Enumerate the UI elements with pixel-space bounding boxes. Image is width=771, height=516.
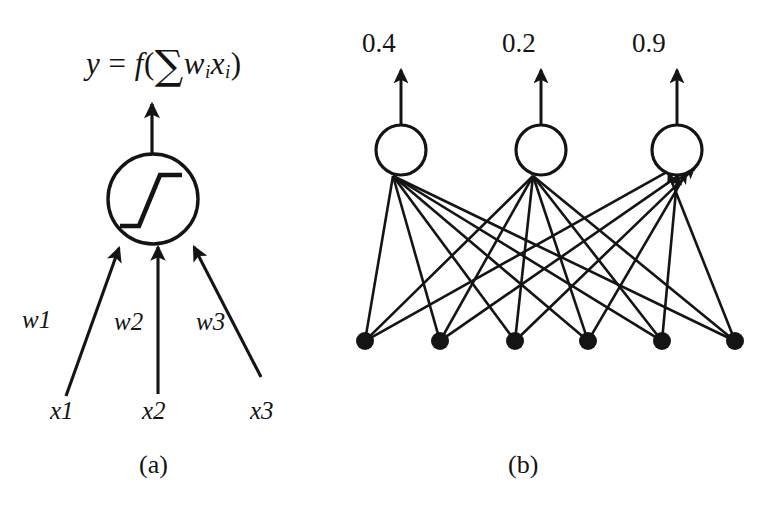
input-node-2	[431, 332, 449, 350]
output-neuron-1	[376, 125, 426, 175]
formula-w: w	[184, 46, 205, 81]
output-value-2: 0.2	[502, 30, 536, 57]
input-label-x2: x2	[142, 398, 166, 423]
input-label-x3: x3	[250, 398, 274, 423]
output-value-3: 0.9	[632, 30, 666, 57]
neuron-circle	[108, 154, 198, 244]
formula-open-paren: (	[144, 46, 155, 81]
input-node-3	[506, 332, 524, 350]
caption-b: (b)	[508, 452, 538, 478]
formula-equals: =	[100, 46, 134, 81]
formula-f: f	[135, 46, 144, 81]
output-neuron-3	[652, 125, 702, 175]
weight-label-w2: w2	[114, 309, 143, 334]
input-node-6	[726, 332, 744, 350]
weight-label-w3: w3	[196, 309, 225, 334]
output-neuron-2	[516, 125, 566, 175]
input-label-x1: x1	[50, 398, 74, 423]
formula-close-paren: )	[231, 46, 242, 81]
weight-label-w1: w1	[22, 307, 51, 332]
neuron-formula: y = f(∑wixi)	[86, 40, 242, 81]
input-node-1	[356, 332, 374, 350]
formula-y: y	[86, 46, 100, 81]
input-node-5	[653, 332, 671, 350]
summation-icon: ∑	[155, 42, 184, 88]
input-node-4	[579, 332, 597, 350]
formula-x: x	[211, 46, 225, 81]
caption-a: (a)	[139, 452, 168, 478]
output-value-1: 0.4	[362, 30, 396, 57]
